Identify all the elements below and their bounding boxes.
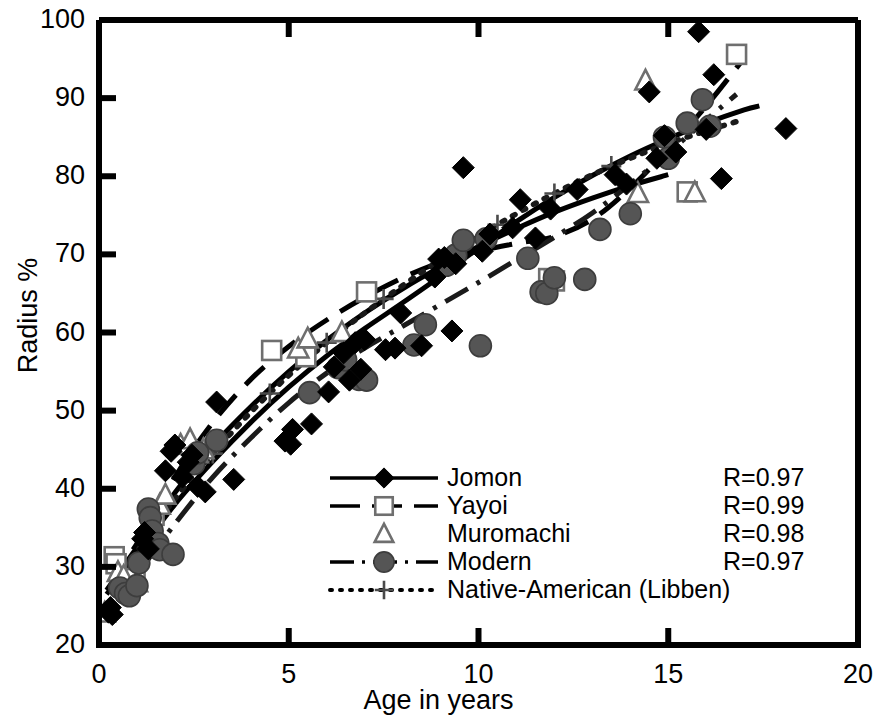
marker-jomon <box>441 320 463 342</box>
x-tick-label: 0 <box>59 661 139 688</box>
marker-jomon <box>318 381 340 403</box>
y-tick-label: 40 <box>5 475 85 502</box>
marker-native-american <box>375 581 393 599</box>
marker-modern <box>676 112 698 134</box>
marker-modern <box>517 247 539 269</box>
marker-muromachi <box>375 524 394 542</box>
marker-jomon <box>223 468 245 490</box>
x-tick-label: 20 <box>818 661 877 688</box>
marker-modern <box>543 267 565 289</box>
series-layer <box>95 21 797 626</box>
marker-yayoi <box>375 497 392 514</box>
legend-label-native-american-libben: Native-American (Libben) <box>447 577 730 602</box>
marker-yayoi <box>357 282 376 301</box>
chart-figure: Radius % Age in years 203040506070809010… <box>0 0 877 724</box>
y-tick-label: 30 <box>5 553 85 580</box>
y-tick-label: 100 <box>5 6 85 33</box>
marker-jomon <box>301 413 323 435</box>
x-tick-label: 15 <box>628 661 708 688</box>
y-tick-label: 70 <box>5 240 85 267</box>
marker-jomon <box>710 168 732 190</box>
x-tick-label: 10 <box>439 661 519 688</box>
marker-modern <box>619 203 641 225</box>
marker-modern <box>414 314 436 336</box>
marker-modern <box>162 543 184 565</box>
y-tick-label: 50 <box>5 397 85 424</box>
r-value: R=0.97 <box>723 549 804 574</box>
plot-canvas <box>0 0 877 724</box>
r-value: R=0.98 <box>723 521 804 546</box>
marker-modern <box>206 429 228 451</box>
x-tick-label: 5 <box>249 661 329 688</box>
marker-modern <box>126 575 148 597</box>
marker-yayoi <box>262 341 281 360</box>
marker-jomon <box>374 468 394 488</box>
marker-jomon <box>703 64 725 86</box>
r-value: R=0.99 <box>723 493 804 518</box>
legend-label-modern: Modern <box>447 549 532 574</box>
y-tick-label: 80 <box>5 162 85 189</box>
marker-modern <box>452 229 474 251</box>
y-tick-label: 20 <box>5 631 85 658</box>
marker-modern <box>469 335 491 357</box>
r-value: R=0.97 <box>723 465 804 490</box>
x-axis-title: Age in years <box>0 685 877 716</box>
y-tick-label: 90 <box>5 84 85 111</box>
legend-markers <box>330 468 438 599</box>
marker-modern <box>589 218 611 240</box>
y-tick-label: 60 <box>5 319 85 346</box>
marker-modern <box>299 382 321 404</box>
marker-modern <box>374 552 394 572</box>
marker-modern <box>691 89 713 111</box>
legend-label-yayoi: Yayoi <box>447 493 508 518</box>
marker-modern <box>574 268 596 290</box>
marker-yayoi <box>727 45 746 64</box>
marker-jomon <box>452 157 474 179</box>
marker-jomon <box>775 118 797 140</box>
marker-jomon <box>688 21 710 43</box>
legend-label-muromachi: Muromachi <box>447 521 571 546</box>
legend-label-jomon: Jomon <box>447 465 522 490</box>
